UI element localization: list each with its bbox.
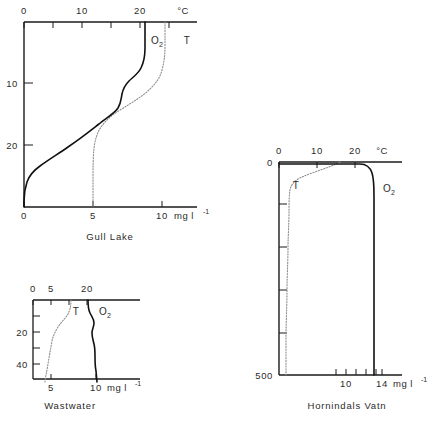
gull-lake-depth-tick-20: 20: [6, 140, 18, 151]
hornindals-temperature-unit: °C: [376, 145, 388, 156]
hornindals-top-ticks: [279, 162, 355, 168]
wastwater-oxygen-label-sub: 2: [107, 312, 111, 319]
gull-lake-oxygen-unit: mg l: [174, 210, 194, 221]
chart-panel-hornindals-vatn: 0 10 20 °C 0 500: [252, 138, 443, 423]
hornindals-oxygen-label: O: [383, 183, 391, 194]
gull-lake-oxygen-label: O: [151, 35, 159, 46]
gull-lake-top-tick-0: 0: [21, 5, 27, 16]
gull-lake-bottom-tick-5: 5: [90, 210, 96, 221]
wastwater-caption: Wastwater: [44, 400, 96, 411]
gull-lake-bottom-tick-0: 0: [21, 210, 27, 221]
hornindals-top-tick-0: 0: [276, 145, 282, 156]
gull-lake-temperature-label: T: [184, 35, 191, 46]
wastwater-top-tick-5: 5: [48, 283, 54, 294]
gull-lake-caption: Gull Lake: [86, 231, 133, 242]
hornindals-bottom-tick-14: 14: [376, 378, 388, 389]
wastwater-oxygen-unit: mg l: [107, 382, 127, 393]
wastwater-bottom-ticks: [51, 374, 96, 379]
hornindals-bottom-tick-10: 10: [340, 378, 352, 389]
wastwater-bottom-tick-5: 5: [48, 382, 54, 393]
hornindals-bottom-ticks: [336, 369, 382, 375]
gull-lake-depth-ticks: [24, 83, 33, 145]
wastwater-oxygen-curve: [88, 300, 97, 382]
gull-lake-oxygen-unit-exponent: -1: [203, 208, 209, 215]
wastwater-oxygen-unit-exponent: -1: [135, 380, 141, 387]
wastwater-temperature-curve: [45, 300, 71, 382]
wastwater-top-tick-0: 0: [30, 283, 36, 294]
wastwater-bottom-tick-10: 10: [90, 382, 102, 393]
gull-lake-temperature-unit: °C: [177, 5, 189, 16]
gull-lake-top-ticks: [24, 22, 169, 28]
hornindals-temperature-label: T: [293, 180, 300, 191]
gull-lake-depth-tick-10: 10: [6, 78, 18, 89]
chart-panel-gull-lake: 0 10 20 °C 10 20 0 5 10 mg l -1: [0, 0, 235, 250]
gull-lake-top-tick-20: 20: [134, 5, 146, 16]
hornindals-depth-tick-500: 500: [255, 370, 273, 381]
hornindals-top-tick-10: 10: [311, 145, 323, 156]
hornindals-oxygen-unit-exponent: -1: [421, 376, 427, 383]
hornindals-oxygen-unit: mg l: [393, 378, 413, 389]
chart-panel-wastwater: 0 5 20 20 40 5 10 mg l -1: [8, 278, 173, 413]
wastwater-top-tick-20: 20: [81, 283, 93, 294]
wastwater-temperature-label: T: [73, 306, 80, 317]
wastwater-top-ticks: [33, 300, 87, 305]
hornindals-oxygen-curve: [279, 164, 374, 375]
hornindals-caption: Hornindals Vatn: [308, 400, 387, 411]
lake-depth-profile-figure: 0 10 20 °C 10 20 0 5 10 mg l -1: [0, 0, 443, 426]
wastwater-depth-tick-40: 40: [16, 359, 28, 370]
hornindals-temperature-curve: [286, 162, 340, 375]
hornindals-depth-tick-0: 0: [267, 157, 273, 168]
wastwater-depth-tick-20: 20: [16, 327, 28, 338]
wastwater-oxygen-label: O: [99, 306, 107, 317]
gull-lake-oxygen-curve: [24, 22, 145, 207]
gull-lake-oxygen-label-sub: 2: [159, 41, 163, 48]
gull-lake-top-tick-10: 10: [76, 5, 88, 16]
hornindals-oxygen-label-sub: 2: [391, 189, 395, 196]
gull-lake-bottom-tick-10: 10: [156, 210, 168, 221]
wastwater-depth-ticks: [33, 316, 40, 364]
hornindals-depth-ticks: [279, 204, 287, 333]
gull-lake-temperature-curve: [93, 22, 165, 207]
hornindals-top-tick-20: 20: [349, 145, 361, 156]
